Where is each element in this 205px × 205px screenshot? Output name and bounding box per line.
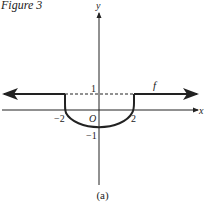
- figure-caption: (a): [0, 189, 205, 201]
- tick-label-1: 1: [91, 83, 96, 94]
- function-graph: y x f 1 −1 −2 2 O: [0, 0, 205, 205]
- tick-label-neg2: −2: [54, 113, 65, 124]
- function-label: f: [153, 79, 158, 91]
- x-axis-label: x: [198, 105, 204, 116]
- y-axis-label: y: [95, 0, 101, 11]
- tick-label-2: 2: [131, 113, 136, 124]
- origin-label: O: [89, 113, 96, 124]
- tick-label-neg1: −1: [86, 130, 97, 141]
